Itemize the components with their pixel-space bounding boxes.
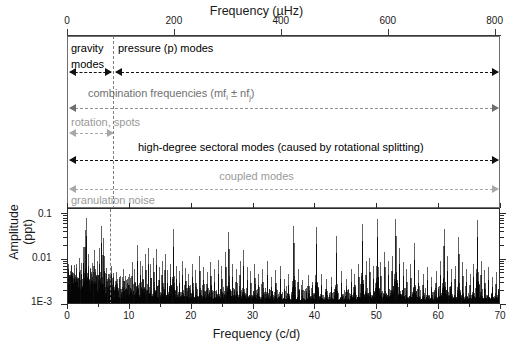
y-axis-minor-tick-right bbox=[500, 269, 504, 270]
bottom-axis-tick-label-2: 20 bbox=[179, 311, 203, 321]
high-degree-sectoral-modes-arrow bbox=[70, 156, 498, 165]
plot-top-tick bbox=[314, 203, 315, 208]
y-axis-minor-tick-right bbox=[500, 215, 504, 216]
y-tick-label-1: 0.01 bbox=[32, 253, 51, 263]
y-axis-minor-tick-right bbox=[500, 266, 504, 267]
plot-top-tick bbox=[191, 203, 192, 208]
bottom-axis-tick bbox=[500, 304, 501, 309]
y-axis-minor-tick-right bbox=[500, 218, 504, 219]
figure-amplitude-spectrum: Frequency (µHz) 0200400600800 gravity mo… bbox=[0, 0, 513, 350]
top-axis-tick-label-0: 0 bbox=[57, 16, 77, 26]
top-axis-tick-label-2: 400 bbox=[271, 16, 291, 26]
bottom-axis-minor-tick bbox=[407, 304, 408, 307]
y-axis-minor-tick-right bbox=[500, 223, 504, 224]
y-axis-major-tick-right bbox=[500, 213, 506, 214]
y-axis-minor-tick-right bbox=[500, 261, 504, 262]
top-axis-tick-label-3: 600 bbox=[378, 16, 398, 26]
bottom-axis-title: Frequency (c/d) bbox=[0, 328, 513, 341]
bottom-axis-tick bbox=[67, 304, 68, 309]
bottom-axis-minor-tick bbox=[469, 304, 470, 307]
gravity-modes-arrow bbox=[70, 68, 111, 77]
y-axis-title: Amplitude (ppt) bbox=[7, 192, 35, 272]
y-axis-minor-tick-right bbox=[500, 277, 504, 278]
bottom-axis-tick bbox=[253, 304, 254, 309]
top-axis-tick bbox=[174, 29, 175, 35]
combination-frequencies-arrow bbox=[70, 104, 498, 113]
gravity-pressure-divider-in-plot bbox=[110, 209, 111, 304]
bottom-axis-tick-label-3: 30 bbox=[241, 311, 265, 321]
y-axis-major-tick-right bbox=[500, 259, 506, 260]
bottom-axis-tick-label-5: 50 bbox=[364, 311, 388, 321]
y-axis-minor-tick-right bbox=[500, 231, 504, 232]
y-axis-minor-tick-right bbox=[500, 220, 504, 221]
pressure-modes-arrow bbox=[116, 68, 498, 77]
top-axis-tick bbox=[495, 29, 496, 35]
plot-top-tick bbox=[376, 203, 377, 208]
y-axis-minor-tick-right bbox=[500, 227, 504, 228]
top-axis-tick-label-1: 200 bbox=[164, 16, 184, 26]
rotation-spots-label: rotation, spots bbox=[71, 117, 140, 128]
bottom-axis-minor-tick bbox=[222, 304, 223, 307]
combination-label-pre: combination frequencies (mf bbox=[88, 87, 226, 99]
bottom-axis-tick-label-1: 10 bbox=[117, 311, 141, 321]
top-axis-tick bbox=[67, 29, 68, 35]
y-axis-minor-tick-right bbox=[500, 263, 504, 264]
combination-frequencies-label: combination frequencies (mfi ± nfj) bbox=[88, 88, 255, 101]
combination-label-post: ) bbox=[251, 87, 255, 99]
top-axis-tick bbox=[281, 29, 282, 35]
bottom-axis-tick bbox=[376, 304, 377, 309]
bottom-axis-tick bbox=[191, 304, 192, 309]
y-axis-minor-tick-right bbox=[500, 282, 504, 283]
gravity-modes-label-line1: gravity bbox=[71, 43, 103, 54]
spectrum-plot-area bbox=[67, 208, 500, 304]
bottom-axis-tick bbox=[129, 304, 130, 309]
bottom-axis-tick bbox=[438, 304, 439, 309]
y-axis-minor-tick-right bbox=[500, 245, 504, 246]
plot-top-tick bbox=[129, 203, 130, 208]
combination-label-mid: ± nf bbox=[228, 87, 249, 99]
plot-top-tick bbox=[253, 203, 254, 208]
y-axis-minor-tick-right bbox=[500, 290, 504, 291]
plot-top-tick bbox=[500, 203, 501, 208]
high-degree-sectoral-modes-label: high-degree sectoral modes (caused by ro… bbox=[138, 142, 424, 153]
top-axis-tick-label-4: 800 bbox=[485, 16, 505, 26]
bottom-axis-tick-label-7: 70 bbox=[488, 311, 512, 321]
coupled-modes-arrow bbox=[70, 185, 498, 194]
spectrum-trace bbox=[68, 209, 500, 304]
bottom-axis-tick-label-0: 0 bbox=[55, 311, 79, 321]
bottom-axis-minor-tick bbox=[98, 304, 99, 307]
bottom-axis-tick-label-6: 60 bbox=[426, 311, 450, 321]
y-tick-label-0: 0.1 bbox=[38, 209, 52, 219]
coupled-modes-label: coupled modes bbox=[0, 171, 513, 182]
bottom-axis-tick bbox=[314, 304, 315, 309]
y-tick-label-2: 1E-3 bbox=[31, 297, 52, 307]
bottom-axis-minor-tick bbox=[345, 304, 346, 307]
pressure-modes-label: pressure (p) modes bbox=[118, 43, 213, 54]
plot-top-tick bbox=[67, 203, 68, 208]
y-axis-minor-tick-right bbox=[500, 237, 504, 238]
y-axis-minor-tick-right bbox=[500, 272, 504, 273]
bottom-axis-tick-label-4: 40 bbox=[302, 311, 326, 321]
top-axis-tick bbox=[388, 29, 389, 35]
bottom-axis-minor-tick bbox=[160, 304, 161, 307]
rotation-spots-arrow bbox=[70, 129, 113, 138]
granulation-noise-label: granulation noise bbox=[71, 195, 155, 206]
plot-top-tick bbox=[438, 203, 439, 208]
bottom-axis-minor-tick bbox=[284, 304, 285, 307]
